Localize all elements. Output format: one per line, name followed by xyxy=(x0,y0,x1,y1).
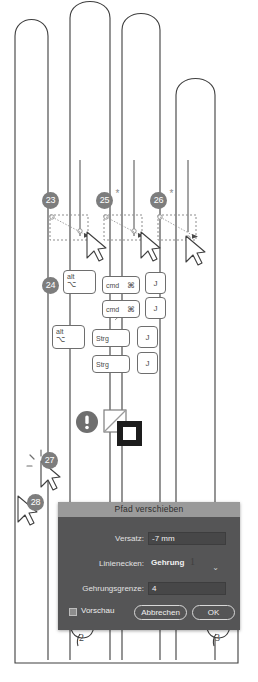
miter-limit-field[interactable]: 4 xyxy=(148,582,226,595)
badge-label: 27 xyxy=(45,455,54,465)
dialog-title: Pfad verschieben xyxy=(58,502,240,517)
badge-label: 24 xyxy=(46,280,55,290)
asterisk-marker: * xyxy=(115,185,119,202)
badge-label: 28 xyxy=(31,497,40,507)
joins-label: Linienecken: xyxy=(58,557,144,571)
dialog-row-miter: Gehrungsgrenze: 4 xyxy=(58,582,240,596)
ok-button[interactable]: OK xyxy=(192,605,235,620)
badge-23: 23 xyxy=(42,192,59,209)
asterisk-marker: * xyxy=(169,185,173,202)
preview-label: Vorschau xyxy=(81,606,114,615)
key-j[interactable]: J xyxy=(137,326,158,348)
offset-value: -7 mm xyxy=(152,533,175,544)
offset-field[interactable]: -7 mm xyxy=(148,532,226,545)
key-alt[interactable]: alt ⌥ xyxy=(63,270,96,294)
cursor-step-1: 1 xyxy=(190,556,195,567)
key-cmd[interactable]: cmd ⌘ xyxy=(102,300,140,318)
dialog-row-offset: Versatz: -7 mm xyxy=(58,532,240,546)
badge-28: 28 xyxy=(27,494,44,511)
badge-label: 26 xyxy=(154,195,163,205)
illustration-canvas: 23 25 * 26 * 24 27 28 alt ⌥ cmd ⌘ J cmd … xyxy=(0,0,258,682)
badge-27: 27 xyxy=(41,452,58,469)
key-j[interactable]: J xyxy=(145,297,166,319)
miter-limit-label: Gehrungsgrenze: xyxy=(58,582,144,596)
badge-label: 23 xyxy=(46,195,55,205)
cancel-button[interactable]: Abbrechen xyxy=(134,605,187,620)
key-strg[interactable]: Strg xyxy=(92,355,130,373)
key-alt[interactable]: alt ⌥ xyxy=(52,325,85,349)
joins-value: Gehrung xyxy=(151,557,184,568)
badge-24: 24 xyxy=(42,277,59,294)
offset-label: Versatz: xyxy=(58,532,144,546)
stroke-swatch xyxy=(117,421,142,446)
badge-26: 26 * xyxy=(150,192,167,209)
cursor-step-3: 3 xyxy=(215,632,220,643)
cursor-step-2: 2 xyxy=(79,632,84,643)
dialog-footer: Vorschau Abbrechen OK xyxy=(58,603,240,623)
miter-limit-value: 4 xyxy=(152,583,156,594)
chevron-down-icon[interactable]: ⌄ xyxy=(211,563,220,572)
handle-line xyxy=(160,217,194,236)
badge-label: 25 xyxy=(100,195,109,205)
key-j[interactable]: J xyxy=(137,352,158,374)
warning-circle-icon xyxy=(76,411,98,433)
key-cmd[interactable]: cmd ⌘ xyxy=(102,276,140,294)
key-strg[interactable]: Strg xyxy=(92,329,130,347)
badge-25: 25 * xyxy=(96,192,113,209)
preview-checkbox[interactable] xyxy=(69,608,77,616)
key-j[interactable]: J xyxy=(145,272,166,294)
